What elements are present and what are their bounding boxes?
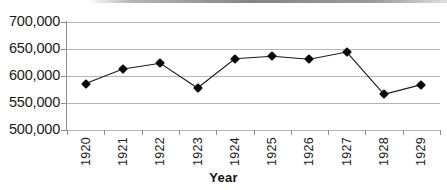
x-axis-tick — [179, 130, 180, 135]
x-axis-tick-label: 1925 — [265, 137, 279, 166]
x-axis-tick — [403, 130, 404, 135]
x-axis-tick — [291, 130, 292, 135]
x-axis-tick — [104, 130, 105, 135]
x-axis-tick-label: 1920 — [79, 137, 93, 166]
x-axis-tick-label: 1924 — [228, 137, 242, 166]
x-axis-tick — [254, 130, 255, 135]
x-axis-tick-label: 1921 — [116, 137, 130, 166]
x-axis-tick-label: 1922 — [153, 137, 167, 166]
y-axis-tick — [61, 76, 67, 77]
x-axis-tick-label: 1927 — [340, 137, 354, 166]
x-axis-tick — [142, 130, 143, 135]
y-axis-tick — [61, 49, 67, 50]
x-axis-tick-label: 1926 — [302, 137, 316, 166]
y-axis-tick — [61, 22, 67, 23]
x-axis-tick — [440, 130, 441, 135]
x-axis-tick — [365, 130, 366, 135]
y-axis-tick — [61, 130, 67, 131]
x-axis-title: Year — [0, 170, 447, 185]
x-axis-tick-label: 1928 — [377, 137, 391, 166]
x-axis-tick — [328, 130, 329, 135]
x-axis-tick — [216, 130, 217, 135]
y-axis-tick — [61, 103, 67, 104]
line-chart: 500,000550,000600,000650,000700,000 1920… — [0, 0, 447, 190]
x-axis-tick-label: 1923 — [191, 137, 205, 166]
x-axis-tick — [67, 130, 68, 135]
x-axis-tick-label: 1929 — [414, 137, 428, 166]
